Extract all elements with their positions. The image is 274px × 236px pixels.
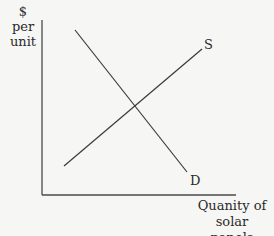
supply-label: S xyxy=(204,38,213,52)
supply-demand-chart: $ per unit Quanity of solar panels S D xyxy=(0,0,274,236)
supply-curve xyxy=(64,49,202,166)
demand-label: D xyxy=(190,174,200,188)
x-axis-label-line1: Quanity of xyxy=(196,198,268,214)
x-axis-label: Quanity of solar panels xyxy=(196,198,268,236)
demand-curve xyxy=(75,30,187,172)
y-axis-label-line1: $ per xyxy=(6,4,40,34)
y-axis-label: $ per unit xyxy=(6,4,40,49)
x-axis-label-line2: solar panels xyxy=(196,214,268,236)
y-axis-label-line2: unit xyxy=(6,34,40,49)
